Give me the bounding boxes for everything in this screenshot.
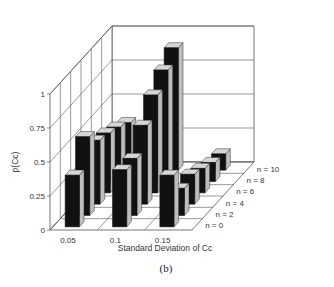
y-tick-label: 1 [41, 90, 46, 99]
x-axis-label: Standard Deviation of Cc [118, 243, 213, 253]
x-tick-label: 0.05 [60, 236, 76, 245]
depth-tick-label: n = 2 [216, 210, 235, 219]
y-axis-label: p(Cc) [10, 151, 20, 172]
depth-tick-label: n = 0 [205, 221, 224, 230]
bar3d-chart: 00.250.50.7510.050.10.15n = 0n = 2n = 4n… [0, 0, 334, 287]
bar [112, 165, 131, 227]
depth-tick-label: n = 10 [257, 165, 280, 174]
y-tick-label: 0 [41, 226, 46, 235]
depth-tick-label: n = 8 [247, 176, 266, 185]
depth-tick-label: n = 6 [236, 187, 255, 196]
y-tick-label: 0.5 [34, 158, 46, 167]
depth-tick-label: n = 4 [226, 199, 245, 208]
y-tick-label: 0.25 [29, 192, 45, 201]
bar [65, 170, 84, 227]
figure-caption: (b) [160, 262, 173, 275]
y-tick-label: 0.75 [29, 124, 45, 133]
bar [160, 170, 179, 227]
